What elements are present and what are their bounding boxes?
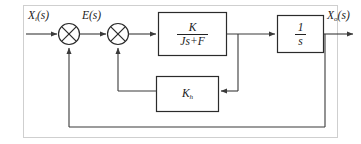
input-signal-base: X [28,9,35,21]
integrator-block: 1 s [277,15,324,53]
integrator-numerator: 1 [295,21,307,34]
input-signal-argument: (s) [37,9,49,21]
output-signal-base: X [327,9,334,21]
integrator-block-label: 1 s [295,21,307,47]
tachometer-gain-subscript: h [190,92,194,100]
plant-numerator: K [177,21,207,34]
input-signal-label: Xi(s) [28,10,49,23]
integrator-denominator: s [295,35,307,47]
tachometer-gain-base: K [182,87,190,99]
tachometer-gain-label: Kh [182,88,193,101]
plant-block: K Js+F [158,12,227,56]
error-signal-argument: (s) [89,9,101,21]
plant-denominator: Js+F [177,35,207,47]
tachometer-gain-block: Kh [156,76,219,112]
error-signal-base: E [82,9,89,21]
error-signal-label: E(s) [82,10,101,22]
output-signal-label: Xo(s) [327,10,350,23]
block-diagram-figure: Xi(s) E(s) Xo(s) K Js+F 1 s Kh [0,0,361,144]
plant-block-label: K Js+F [177,21,207,47]
output-signal-argument: (s) [338,9,350,21]
